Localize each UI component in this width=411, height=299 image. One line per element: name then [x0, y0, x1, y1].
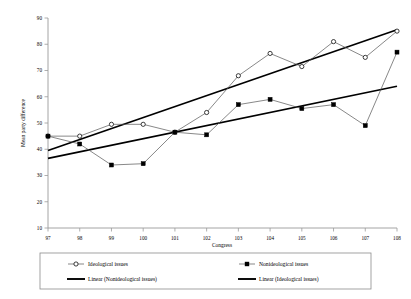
- data-point-marker: [109, 163, 113, 167]
- data-point-marker: [173, 130, 177, 134]
- legend: [40, 253, 371, 289]
- data-point-marker: [141, 162, 145, 166]
- data-point-marker: [141, 122, 145, 126]
- data-point-marker: [205, 110, 209, 114]
- y-tick-label: 90: [37, 15, 43, 21]
- x-tick-label: 97: [45, 235, 51, 241]
- y-tick-label: 20: [37, 199, 43, 205]
- chart-container: 102030405060708090 979899100101102103104…: [0, 0, 411, 299]
- y-axis-title: Mean party difference: [20, 98, 26, 146]
- series-line: [48, 31, 397, 136]
- y-tick-group: 102030405060708090: [37, 15, 48, 231]
- legend-filled-square-icon: [245, 262, 249, 266]
- x-tick-label: 100: [139, 235, 147, 241]
- data-point-marker: [78, 134, 82, 138]
- x-axis-title: Congress: [212, 242, 232, 248]
- data-point-marker: [363, 124, 367, 128]
- data-point-marker: [78, 142, 82, 146]
- legend-open-circle-icon: [74, 262, 78, 266]
- x-tick-label: 102: [203, 235, 211, 241]
- y-tick-label: 40: [37, 146, 43, 152]
- x-tick-label: 99: [109, 235, 115, 241]
- data-point-marker: [268, 51, 272, 55]
- x-tick-label: 108: [393, 235, 401, 241]
- x-tick-label: 98: [77, 235, 83, 241]
- legend-item-label: Linear (Ideological issues): [259, 276, 319, 283]
- data-point-marker: [236, 74, 240, 78]
- y-tick-label: 10: [37, 225, 43, 231]
- legend-item-label: Nonideological issues: [259, 261, 308, 267]
- y-tick-label: 70: [37, 67, 43, 73]
- y-tick-label: 50: [37, 120, 43, 126]
- data-point-marker: [332, 103, 336, 107]
- x-tick-label: 105: [298, 235, 306, 241]
- line-chart: 102030405060708090 979899100101102103104…: [0, 0, 411, 299]
- data-point-marker: [331, 40, 335, 44]
- y-tick-label: 30: [37, 172, 43, 178]
- legend-item-label: Ideological issues: [88, 261, 128, 267]
- data-point-marker: [300, 107, 304, 111]
- data-point-marker: [46, 134, 50, 138]
- x-tick-label: 103: [234, 235, 242, 241]
- x-tick-label: 101: [171, 235, 179, 241]
- y-tick-label: 80: [37, 41, 43, 47]
- legend-item-label: Linear (Nonideological issues): [88, 276, 157, 283]
- data-series-group: [46, 29, 399, 167]
- x-tick-label: 104: [266, 235, 274, 241]
- legend-border: [40, 253, 371, 289]
- y-tick-label: 60: [37, 94, 43, 100]
- legend-item-group: Ideological issuesNonideological issuesL…: [67, 261, 319, 283]
- data-point-marker: [268, 97, 272, 101]
- data-point-marker: [395, 29, 399, 33]
- data-point-marker: [363, 55, 367, 59]
- x-tick-group: 979899100101102103104105106107108: [45, 228, 401, 241]
- data-point-marker: [395, 50, 399, 54]
- data-point-marker: [236, 103, 240, 107]
- trendline: [48, 30, 397, 151]
- x-tick-label: 107: [361, 235, 369, 241]
- data-point-marker: [109, 122, 113, 126]
- data-point-marker: [205, 133, 209, 137]
- trendline: [48, 86, 397, 158]
- x-tick-label: 106: [330, 235, 338, 241]
- data-point-marker: [300, 64, 304, 68]
